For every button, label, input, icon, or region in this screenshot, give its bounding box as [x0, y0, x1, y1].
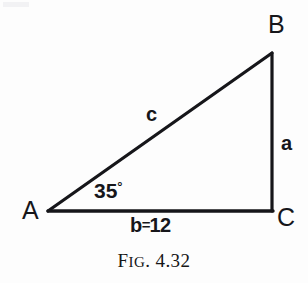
caption-smallcaps: IG — [129, 254, 146, 270]
side-label-c: c — [146, 104, 157, 124]
caption-rest: . 4.32 — [145, 250, 190, 271]
side-b-letter: b — [130, 214, 142, 236]
caption-lead: F — [118, 250, 129, 271]
vertex-label-c: C — [277, 205, 295, 230]
angle-label-a: 35° — [94, 180, 123, 201]
angle-value-text: 35 — [94, 179, 117, 202]
figure-caption: FIG. 4.32 — [0, 250, 308, 272]
triangle-side-c-line — [48, 53, 272, 211]
degree-symbol: ° — [117, 179, 122, 194]
vertex-label-b: B — [268, 12, 285, 37]
side-label-b: b=12 — [130, 215, 171, 235]
vertex-label-a: A — [22, 198, 39, 223]
figure-container: A B C c a 35° b=12 FIG. 4.32 — [0, 0, 308, 283]
triangle-diagram — [0, 0, 308, 283]
side-label-a: a — [281, 133, 292, 153]
side-b-value: 12 — [149, 214, 170, 236]
